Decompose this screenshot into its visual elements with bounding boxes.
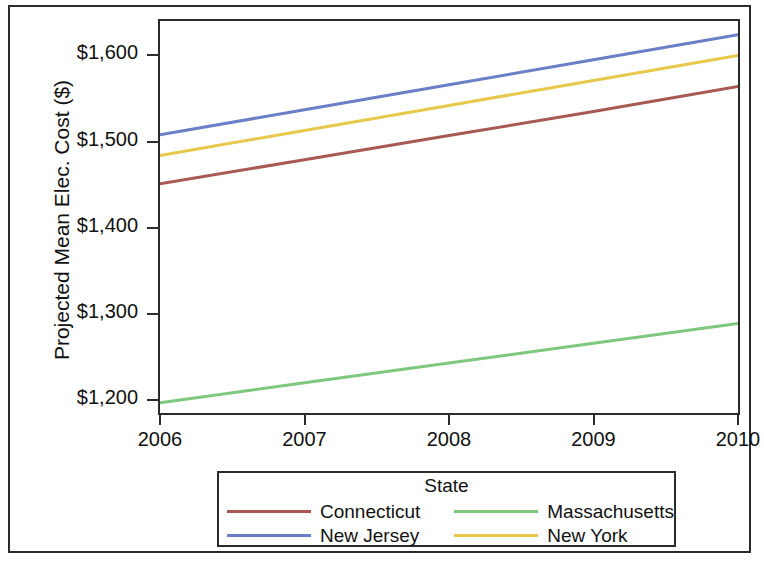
y-axis-tick-label: $1,400 xyxy=(38,214,138,237)
y-axis-tick-mark xyxy=(147,54,158,56)
x-axis-tick-label: 2008 xyxy=(404,428,494,451)
legend-entry-label: New Jersey xyxy=(320,526,419,545)
legend-color-swatch xyxy=(227,510,311,513)
legend-entry[interactable]: Connecticut xyxy=(219,502,446,521)
y-axis-tick-mark xyxy=(147,313,158,315)
legend-color-swatch xyxy=(454,510,538,513)
x-axis-tick-mark xyxy=(737,415,739,425)
x-axis-tick-label: 2006 xyxy=(115,428,205,451)
series-line xyxy=(160,55,738,155)
legend-entry-label: Massachusetts xyxy=(547,502,674,521)
legend-box: State ConnecticutMassachusettsNew Jersey… xyxy=(217,471,676,547)
plot-area xyxy=(158,19,740,415)
series-line xyxy=(160,86,738,183)
legend-title: State xyxy=(219,475,674,497)
series-line xyxy=(160,35,738,135)
x-axis-tick-label: 2009 xyxy=(549,428,639,451)
x-axis-tick-label: 2010 xyxy=(693,428,764,451)
legend-entries: ConnecticutMassachusettsNew JerseyNew Yo… xyxy=(219,499,674,547)
legend-entry-label: New York xyxy=(547,526,627,545)
y-axis-tick-label: $1,200 xyxy=(38,386,138,409)
y-axis-tick-mark xyxy=(147,141,158,143)
legend-entry[interactable]: Massachusetts xyxy=(446,502,674,521)
y-axis-tick-mark xyxy=(147,227,158,229)
x-axis-tick-label: 2007 xyxy=(260,428,350,451)
x-axis-tick-mark xyxy=(304,415,306,425)
series-line xyxy=(160,323,738,402)
x-axis-tick-mark xyxy=(159,415,161,425)
plot-lines xyxy=(160,21,738,413)
x-axis-tick-mark xyxy=(593,415,595,425)
x-axis-tick-mark xyxy=(448,415,450,425)
legend-entry-label: Connecticut xyxy=(320,502,420,521)
y-axis-tick-label: $1,500 xyxy=(38,128,138,151)
y-axis-tick-label: $1,300 xyxy=(38,300,138,323)
y-axis-tick-mark xyxy=(147,399,158,401)
legend-color-swatch xyxy=(227,534,311,537)
y-axis-tick-label: $1,600 xyxy=(38,41,138,64)
legend-color-swatch xyxy=(454,534,538,537)
legend-entry[interactable]: New York xyxy=(446,526,674,545)
legend-entry[interactable]: New Jersey xyxy=(219,526,446,545)
